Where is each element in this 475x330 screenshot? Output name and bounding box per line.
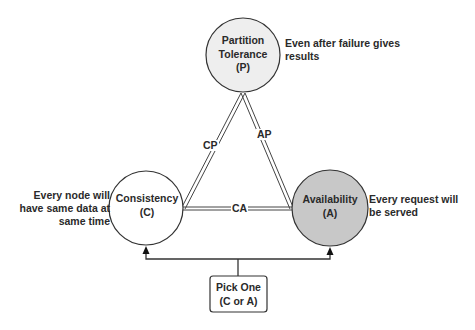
choice-connector bbox=[146, 249, 330, 276]
node-partition-line3: (P) bbox=[206, 61, 280, 75]
partition-description-line1: Even after failure gives bbox=[285, 37, 400, 50]
consistency-description-line2: have same data at bbox=[10, 202, 110, 215]
choice-box-label: Pick One (C or A) bbox=[210, 281, 267, 308]
consistency-description: Every node will have same data at same t… bbox=[10, 189, 110, 228]
arrowhead-consistency-icon bbox=[143, 246, 150, 254]
arrowhead-availability-icon bbox=[327, 247, 334, 255]
edge-ap-label: AP bbox=[256, 129, 273, 140]
availability-description-line1: Every request will bbox=[369, 193, 458, 206]
edge-ap bbox=[241, 93, 293, 209]
partition-description: Even after failure gives results bbox=[285, 37, 400, 63]
choice-box-line1: Pick One bbox=[210, 281, 267, 295]
node-availability-label: Availability (A) bbox=[292, 193, 368, 220]
node-consistency-line2: (C) bbox=[110, 206, 184, 220]
edge-ca-label: CA bbox=[231, 203, 248, 214]
edge-cp-label: CP bbox=[202, 140, 219, 151]
node-partition-label: Partition Tolerance (P) bbox=[206, 34, 280, 75]
node-availability-line1: Availability bbox=[292, 193, 368, 207]
node-partition-line2: Tolerance bbox=[206, 48, 280, 62]
consistency-description-line3: same time bbox=[10, 215, 110, 228]
node-consistency-line1: Consistency bbox=[110, 192, 184, 206]
partition-description-line2: results bbox=[285, 50, 400, 63]
availability-description-line2: be served bbox=[369, 206, 458, 219]
node-consistency-label: Consistency (C) bbox=[110, 192, 184, 219]
choice-box-line2: (C or A) bbox=[210, 295, 267, 309]
node-partition-line1: Partition bbox=[206, 34, 280, 48]
consistency-description-line1: Every node will bbox=[10, 189, 110, 202]
availability-description: Every request will be served bbox=[369, 193, 458, 219]
edge-cp bbox=[182, 93, 245, 209]
node-availability-line2: (A) bbox=[292, 207, 368, 221]
